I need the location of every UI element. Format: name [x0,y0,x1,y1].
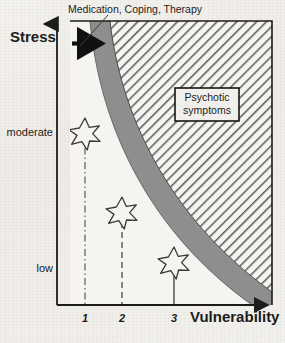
x-tick-label-2: 2 [118,312,125,324]
psychotic-symptoms-line1: Psychotic [185,91,230,103]
psychotic-symptoms-callout: Psychotic symptoms [175,88,239,121]
y-tick-label-moderate: moderate [7,126,53,138]
figure-canvas: Psychotic symptoms Medication, Coping, T… [0,0,285,343]
x-axis-title: Vulnerability [190,308,280,325]
x-tick-label-3: 3 [171,312,177,324]
stress-vulnerability-diagram: Psychotic symptoms Medication, Coping, T… [0,0,285,343]
y-axis-title: Stress [10,28,56,45]
plot-area [69,21,272,305]
y-tick-label-low: low [36,262,53,274]
x-tick-label-1: 1 [82,312,88,324]
psychotic-symptoms-line2: symptoms [183,104,231,116]
treatment-callout-label: Medication, Coping, Therapy [68,3,203,15]
